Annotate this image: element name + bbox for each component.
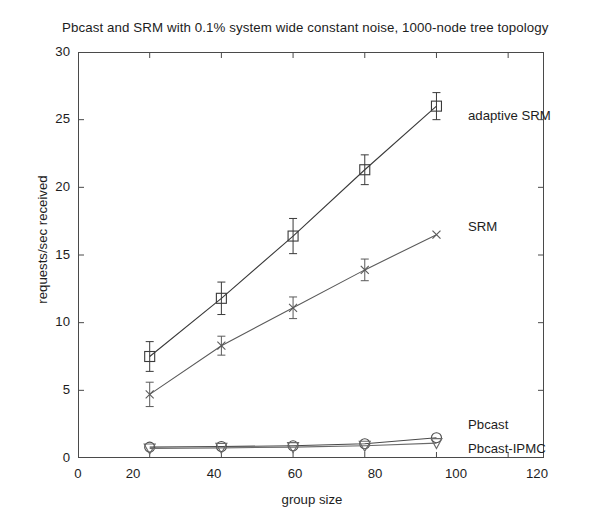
data-series-layer xyxy=(144,93,442,454)
axis-ticks xyxy=(78,52,544,458)
chart-graphics xyxy=(0,0,607,526)
chart-canvas: Pbcast and SRM with 0.1% system wide con… xyxy=(0,0,607,526)
